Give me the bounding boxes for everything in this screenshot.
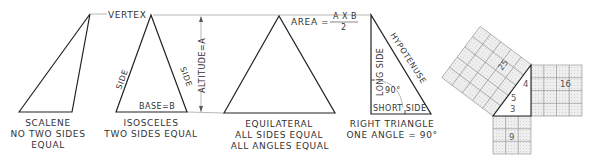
svg-text:SCALENE: SCALENE: [25, 118, 70, 128]
svg-text:EQUILATERAL: EQUILATERAL: [245, 119, 313, 129]
equilateral-triangle: [224, 16, 335, 113]
svg-text:TWO SIDES EQUAL: TWO SIDES EQUAL: [103, 129, 197, 139]
side-label-right: SIDE: [178, 66, 194, 88]
svg-text:ISOSCELES: ISOSCELES: [124, 118, 179, 128]
base-extension-line: [187, 112, 224, 113]
angle-label: 90°: [385, 86, 401, 95]
svg-text:NO TWO SIDES: NO TWO SIDES: [11, 129, 86, 139]
scalene-caption: SCALENE NO TWO SIDES EQUAL: [11, 118, 86, 150]
svg-text:ONE ANGLE = 90°: ONE ANGLE = 90°: [346, 130, 437, 140]
side-label-5: 5: [511, 93, 516, 103]
isosceles-triangle: [116, 15, 187, 112]
square-label-9: 9: [509, 132, 514, 142]
vertex-label: VERTEX: [108, 10, 146, 20]
triangle-types-diagram: VERTEX SCALENE NO TWO SIDES EQUAL SIDE S…: [0, 0, 598, 162]
svg-text:A X B: A X B: [333, 12, 357, 21]
right-triangle-caption: RIGHT TRIANGLE ONE ANGLE = 90°: [346, 119, 437, 140]
side-label-4: 4: [523, 79, 528, 89]
altitude-label: ALTITUDE=A: [198, 38, 207, 93]
equilateral-caption: EQUILATERAL ALL SIDES EQUAL ALL ANGLES E…: [231, 119, 329, 151]
base-label: BASE=B: [139, 102, 175, 111]
long-side-label: LONG SIDE: [376, 48, 385, 96]
svg-text:ALL SIDES EQUAL: ALL SIDES EQUAL: [235, 130, 323, 140]
side-label-3: 3: [510, 104, 515, 114]
isosceles-caption: ISOSCELES TWO SIDES EQUAL: [103, 118, 197, 139]
svg-text:2: 2: [341, 23, 347, 32]
square-label-16: 16: [560, 79, 571, 89]
scalene-triangle: [19, 14, 90, 112]
short-side-label: SHORT SIDE: [373, 104, 426, 113]
svg-text:AREA =: AREA =: [291, 17, 329, 27]
svg-text:EQUAL: EQUAL: [31, 140, 65, 150]
svg-text:ALL ANGLES EQUAL: ALL ANGLES EQUAL: [231, 141, 329, 151]
svg-text:RIGHT TRIANGLE: RIGHT TRIANGLE: [350, 119, 434, 129]
square-16: [531, 65, 582, 116]
